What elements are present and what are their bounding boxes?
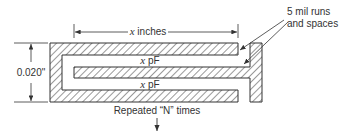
- interdigital-capacitor-diagram: x inches 0.020" x pF x pF 5 mil runs and…: [0, 0, 343, 140]
- callout-label-line1: 5 mil runs: [287, 6, 330, 17]
- dimension-top-label: x inches: [129, 25, 167, 37]
- repeat-note: Repeated “N” times: [114, 105, 201, 116]
- callout-label-line2: and spaces: [287, 18, 338, 29]
- capacitance-label-lower: x pF: [139, 78, 159, 90]
- dimension-left-label: 0.020": [17, 67, 46, 78]
- capacitance-label-upper: x pF: [139, 54, 159, 66]
